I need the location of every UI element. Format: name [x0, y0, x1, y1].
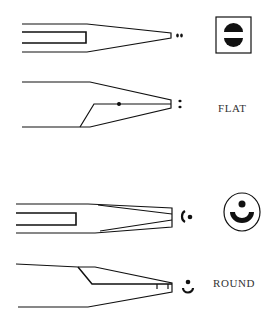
round-label: ROUND: [213, 277, 255, 289]
round-tip-marker-side: [183, 280, 193, 293]
round-tip-marker-top: [182, 211, 192, 222]
round-tool-top-view: [16, 204, 172, 233]
flat-tip-marker-top: [176, 34, 183, 38]
flat-cross-section-icon: [216, 17, 251, 53]
round-tool-side-view: [16, 264, 172, 307]
flat-tool-top-view: [22, 24, 171, 52]
flat-tool-side-view: [22, 82, 171, 127]
round-cross-section-icon: [224, 193, 260, 231]
tool-diagram: [0, 0, 273, 313]
flat-label: FLAT: [218, 102, 247, 114]
flat-tip-marker-side: [178, 100, 181, 109]
